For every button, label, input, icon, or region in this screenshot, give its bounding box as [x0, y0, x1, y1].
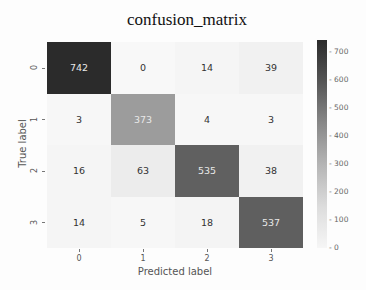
heatmap-cell: 742: [47, 42, 111, 94]
heatmap-cell: 39: [239, 42, 303, 94]
colorbar-tick: 500: [329, 104, 348, 112]
x-tick-mark: [79, 249, 80, 252]
y-axis-label: True label: [17, 114, 28, 174]
x-tick-mark: [207, 249, 208, 252]
heatmap-cell: 535: [175, 145, 239, 197]
x-tick-mark: [143, 249, 144, 252]
heatmap-cell: 63: [111, 145, 175, 197]
colorbar-tick: 600: [329, 76, 348, 84]
heatmap-cell: 3: [47, 94, 111, 146]
heatmap-cell: 3: [239, 94, 303, 146]
colorbar-tick: 300: [329, 160, 348, 168]
colorbar-tick: 700: [329, 48, 348, 56]
y-tick-mark: [42, 119, 45, 120]
y-tick-mark: [42, 171, 45, 172]
heatmap-cell: 4: [175, 94, 239, 146]
heatmap-grid: 7420143933734316635353814518537: [47, 42, 303, 248]
y-tick-mark: [42, 68, 45, 69]
y-tick-2: 2: [30, 164, 39, 178]
colorbar-tick: 200: [329, 188, 348, 196]
heatmap-cell: 537: [239, 197, 303, 249]
heatmap-cell: 0: [111, 42, 175, 94]
y-tick-mark: [42, 222, 45, 223]
colorbar: [317, 40, 327, 248]
x-tick-mark: [271, 249, 272, 252]
heatmap-cell: 14: [175, 42, 239, 94]
heatmap-cell: 16: [47, 145, 111, 197]
heatmap-cell: 373: [111, 94, 175, 146]
x-tick-0: 0: [72, 254, 86, 263]
heatmap-cell: 38: [239, 145, 303, 197]
x-axis-label: Predicted label: [47, 266, 303, 277]
chart-title: confusion_matrix: [0, 10, 366, 30]
x-tick-3: 3: [264, 254, 278, 263]
x-tick-1: 1: [136, 254, 150, 263]
heatmap-cell: 18: [175, 197, 239, 249]
y-tick-0: 0: [30, 61, 39, 75]
heatmap-cell: 14: [47, 197, 111, 249]
colorbar-tick: 400: [329, 132, 348, 140]
y-tick-1: 1: [30, 113, 39, 127]
x-tick-2: 2: [200, 254, 214, 263]
colorbar-tick: 0: [329, 244, 339, 252]
heatmap-cell: 5: [111, 197, 175, 249]
y-tick-3: 3: [30, 216, 39, 230]
colorbar-tick: 100: [329, 216, 348, 224]
